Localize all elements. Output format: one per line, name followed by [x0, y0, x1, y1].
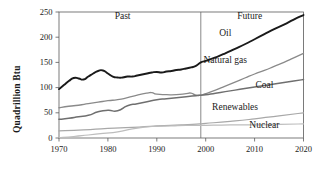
natural-gas-label: Natural gas: [203, 55, 247, 65]
y-tick-150: 150: [27, 57, 53, 67]
oil-label: Oil: [219, 28, 231, 38]
nuclear-label: Nuclear: [249, 120, 279, 130]
renewables-label: Renewables: [212, 102, 258, 112]
x-tick-2010: 2010: [235, 144, 275, 154]
x-tick-2000: 2000: [186, 144, 226, 154]
x-tick-1990: 1990: [137, 144, 177, 154]
x-tick-1970: 1970: [39, 144, 79, 154]
y-tick-250: 250: [27, 7, 53, 17]
past-label: Past: [115, 11, 131, 21]
plot-frame: [59, 12, 304, 138]
y-tick-200: 200: [27, 32, 53, 42]
y-tick-0: 0: [27, 133, 53, 143]
future-label: Future: [237, 11, 262, 21]
x-tick-2020: 2020: [284, 144, 324, 154]
energy-consumption-chart: Quadrillion Btu 050100150200250 19701980…: [0, 0, 324, 174]
coal-label: Coal: [255, 80, 273, 90]
y-tick-50: 50: [27, 107, 53, 117]
x-tick-1980: 1980: [88, 144, 128, 154]
series-line-oil: [59, 15, 304, 89]
series-layer: [59, 15, 304, 137]
y-tick-100: 100: [27, 82, 53, 92]
